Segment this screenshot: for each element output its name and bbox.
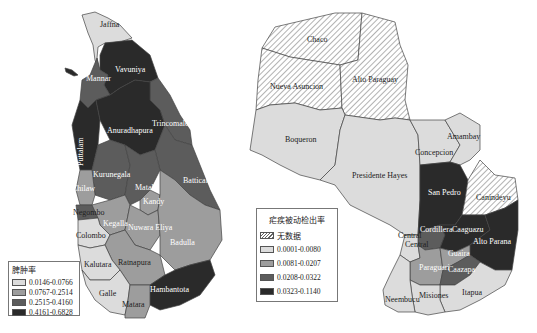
legend-swatch-hatched: [260, 232, 274, 239]
svg-text:Matale: Matale: [135, 183, 158, 192]
svg-text:Chaco: Chaco: [307, 35, 327, 44]
legend-item: 0.0208-0.0322: [260, 270, 337, 284]
svg-text:Guaira: Guaira: [448, 249, 470, 258]
paraguay-legend-title: 疟疾被动检出率: [257, 214, 337, 225]
legend-swatch: [12, 299, 26, 306]
svg-text:Nuwara Eliya: Nuwara Eliya: [128, 223, 173, 232]
svg-text:Caazapa: Caazapa: [448, 265, 476, 274]
legend-label: 0.0767-0.2514: [29, 288, 73, 297]
svg-text:Canindeyu: Canindeyu: [476, 193, 511, 202]
svg-text:Hambantota: Hambantota: [150, 285, 190, 294]
svg-text:Jaffna: Jaffna: [100, 20, 120, 29]
svg-text:Chilaw: Chilaw: [72, 184, 95, 193]
legend-item: 0.0001-0.0080: [260, 242, 337, 256]
legend-swatch: [260, 246, 274, 253]
svg-text:Trincomalee: Trincomalee: [152, 119, 193, 128]
legend-swatch: [12, 279, 26, 286]
legend-swatch: [260, 260, 274, 267]
svg-text:Mannar: Mannar: [86, 74, 111, 83]
legend-label: 0.0323-0.1140: [277, 287, 320, 296]
legend-item: 0.2515-0.4160: [12, 297, 79, 307]
svg-text:Ratnapura: Ratnapura: [118, 258, 151, 267]
svg-text:Presidente Hayes: Presidente Hayes: [352, 171, 407, 180]
svg-text:Negombo: Negombo: [73, 208, 105, 217]
legend-label: 0.0146-0.0766: [29, 278, 73, 287]
svg-text:San Pedro: San Pedro: [428, 188, 461, 197]
legend-label: 0.4161-0.6828: [29, 308, 73, 317]
svg-text:Concepcion: Concepcion: [415, 148, 453, 157]
svg-text:Amambay: Amambay: [447, 132, 480, 141]
mannar-island: [65, 68, 78, 76]
legend-label: 0.0208-0.0322: [277, 273, 321, 282]
svg-text:Batticaloa: Batticaloa: [183, 176, 216, 185]
svg-text:Colombo: Colombo: [76, 231, 106, 240]
svg-text:Central: Central: [405, 240, 429, 249]
legend-item-no-data: 无数据: [260, 229, 337, 242]
svg-text:Vavuniya: Vavuniya: [115, 65, 146, 74]
svg-text:Neembucu: Neembucu: [385, 295, 420, 304]
legend-item: 0.0767-0.2514: [12, 287, 79, 297]
svg-text:Itapua: Itapua: [462, 288, 482, 297]
legend-item: 0.0323-0.1140: [260, 284, 337, 298]
legend-swatch: [260, 274, 274, 281]
legend-item: 0.0146-0.0766: [12, 277, 79, 287]
svg-text:Paraguari: Paraguari: [419, 263, 450, 272]
legend-swatch: [12, 289, 26, 296]
legend-item: 0.0081-0.0207: [260, 256, 337, 270]
svg-text:Cordillera: Cordillera: [420, 225, 453, 234]
svg-text:Central: Central: [398, 231, 422, 240]
legend-item: 0.4161-0.6828: [12, 307, 79, 317]
legend-label: 0.2515-0.4160: [29, 298, 73, 307]
sri-lanka-legend: 脾肿率 0.0146-0.0766 0.0767-0.2514 0.2515-0…: [8, 261, 80, 316]
svg-text:Kalutara: Kalutara: [84, 260, 112, 269]
svg-text:Matara: Matara: [122, 300, 145, 309]
legend-swatch: [12, 309, 26, 316]
paraguay-legend: 疟疾被动检出率 无数据 0.0001-0.0080 0.0081-0.0207 …: [256, 208, 338, 302]
sri-lanka-map: [65, 12, 222, 318]
svg-text:Alto Paraguay: Alto Paraguay: [352, 75, 398, 84]
svg-text:Kandy: Kandy: [143, 197, 164, 206]
svg-text:Anuradhapura: Anuradhapura: [107, 126, 153, 135]
legend-label: 0.0001-0.0080: [277, 245, 321, 254]
legend-swatch: [260, 288, 274, 295]
svg-text:Nueva Asuncion: Nueva Asuncion: [270, 82, 323, 91]
svg-text:Boqueron: Boqueron: [285, 135, 317, 144]
svg-text:Caaguazu: Caaguazu: [452, 225, 484, 234]
svg-text:Badulla: Badulla: [170, 238, 195, 247]
sri-lanka-legend-title: 脾肿率: [12, 264, 79, 275]
legend-label: 0.0081-0.0207: [277, 259, 321, 268]
svg-text:Galle: Galle: [99, 289, 117, 298]
legend-label: 无数据: [277, 230, 301, 241]
svg-text:Puttalam: Puttalam: [76, 137, 85, 166]
svg-text:Kegalla: Kegalla: [103, 219, 128, 228]
svg-text:Alto Parana: Alto Parana: [473, 237, 511, 246]
svg-text:Kurunegala: Kurunegala: [93, 170, 131, 179]
svg-text:Misiones: Misiones: [419, 291, 448, 300]
